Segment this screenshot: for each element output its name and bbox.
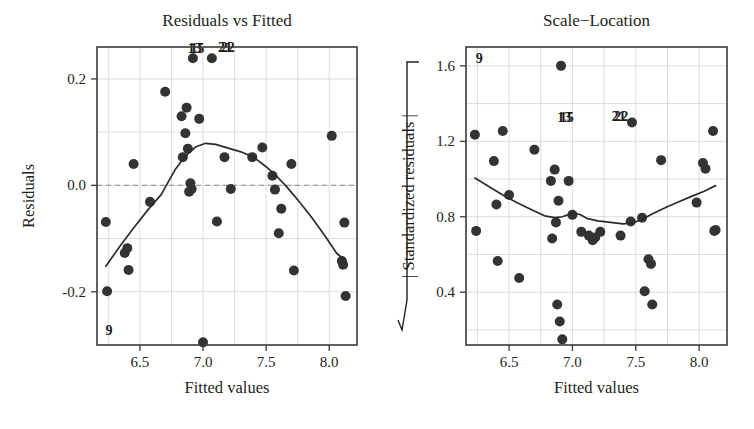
x-tick-label: 8.0	[320, 354, 339, 370]
data-point	[471, 226, 481, 236]
data-point	[327, 131, 337, 141]
figure-canvas: Residuals vs Fitted1315212296.57.07.58.0…	[0, 0, 754, 429]
data-point	[708, 126, 718, 136]
data-point	[493, 256, 503, 266]
data-point	[616, 231, 626, 241]
data-point	[557, 334, 567, 344]
data-point	[226, 184, 236, 194]
data-point	[491, 199, 501, 209]
x-tick-label: 6.5	[131, 354, 150, 370]
data-point	[160, 87, 170, 97]
data-point	[207, 53, 217, 63]
data-point	[514, 273, 524, 283]
x-tick-label: 8.0	[690, 354, 709, 370]
diagnostic-plots-figure: Residuals vs Fitted1315212296.57.07.58.0…	[0, 0, 754, 429]
data-point	[257, 143, 267, 153]
data-point	[129, 159, 139, 169]
point-label: 22	[614, 109, 628, 124]
y-axis-label: | Standardized residuals |	[399, 114, 418, 278]
panel-title-right: Scale−Location	[543, 11, 650, 30]
x-tick-label: 7.5	[257, 354, 276, 370]
x-tick-label: 6.5	[500, 354, 519, 370]
data-point	[529, 145, 539, 155]
x-tick-label: 7.5	[626, 354, 645, 370]
data-point	[646, 259, 656, 269]
point-label: 15	[560, 110, 574, 125]
point-label: 9	[105, 323, 112, 338]
data-point	[341, 291, 351, 301]
y-tick-label: 1.6	[436, 58, 455, 74]
data-point	[595, 227, 605, 237]
data-point	[183, 144, 193, 154]
y-tick-label: -0.2	[62, 284, 86, 300]
data-point	[552, 299, 562, 309]
data-point	[640, 286, 650, 296]
data-point	[656, 155, 666, 165]
data-point	[286, 159, 296, 169]
y-tick-label: 0.4	[436, 284, 455, 300]
y-tick-label: 0.0	[67, 177, 86, 193]
data-point	[289, 266, 299, 276]
data-point	[101, 217, 111, 227]
panel-right: Scale−Location9131521226.57.07.58.01.61.…	[398, 11, 727, 397]
data-point	[274, 228, 284, 238]
data-point	[553, 196, 563, 206]
y-tick-label: 1.2	[436, 133, 455, 149]
x-axis-label: Fitted values	[185, 378, 270, 397]
panel-frame	[97, 47, 357, 345]
data-point	[177, 111, 187, 121]
data-point	[498, 126, 508, 136]
data-point	[219, 152, 229, 162]
data-point	[102, 286, 112, 296]
data-point	[339, 218, 349, 228]
y-axis-label: Residuals	[19, 164, 38, 228]
data-point	[470, 130, 480, 140]
data-point	[338, 260, 348, 270]
data-point	[270, 185, 280, 195]
point-label: 22	[221, 40, 235, 55]
data-point	[546, 176, 556, 186]
data-point	[212, 217, 222, 227]
data-point	[187, 184, 197, 194]
panel-title-left: Residuals vs Fitted	[162, 11, 292, 30]
data-point	[626, 216, 636, 226]
x-tick-label: 7.0	[563, 354, 582, 370]
data-point	[180, 128, 190, 138]
data-point	[556, 61, 566, 71]
y-tick-label: 0.8	[436, 209, 455, 225]
x-axis-label: Fitted values	[554, 378, 639, 397]
data-point	[555, 316, 565, 326]
data-point	[564, 176, 574, 186]
data-point	[124, 265, 134, 275]
data-point	[276, 204, 286, 214]
panel-left: Residuals vs Fitted1315212296.57.07.58.0…	[19, 11, 357, 397]
point-label: 9	[476, 51, 483, 66]
data-point	[711, 225, 721, 235]
data-point	[551, 217, 561, 227]
data-point	[547, 233, 557, 243]
data-point	[692, 198, 702, 208]
data-point	[182, 103, 192, 113]
data-point	[145, 197, 155, 207]
data-point	[489, 156, 499, 166]
data-point	[550, 165, 560, 175]
data-point	[122, 243, 132, 253]
data-point	[700, 164, 710, 174]
data-point	[627, 117, 637, 127]
x-tick-label: 7.0	[194, 354, 213, 370]
point-label: 15	[190, 41, 204, 56]
y-tick-label: 0.2	[67, 71, 86, 87]
data-point	[194, 114, 204, 124]
data-point	[647, 299, 657, 309]
